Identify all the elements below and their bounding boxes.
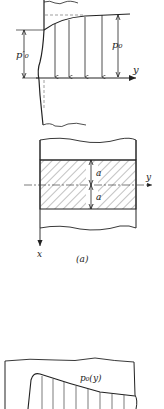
p0-prime-label: p′₀ bbox=[16, 49, 29, 60]
bottom-top-break-line bbox=[5, 358, 134, 362]
a-lower-label: a bbox=[96, 192, 101, 202]
layer-cross-section-diagram: a a y x (a) bbox=[24, 138, 152, 264]
diagram-canvas: p₀ p′₀ y a a y x bbox=[0, 0, 164, 409]
p0-label: p₀ bbox=[112, 39, 122, 50]
wall-profile bbox=[38, 0, 44, 125]
pressure-distribution-diagram: p₀ p′₀ y bbox=[16, 0, 139, 127]
p0y-distribution-diagram: p₀(y) bbox=[5, 358, 137, 409]
upper-body bbox=[40, 138, 136, 160]
x-axis-label: x bbox=[37, 249, 42, 259]
a-upper-label: a bbox=[96, 168, 101, 178]
y-axis-label: y bbox=[132, 64, 139, 75]
top-break-line bbox=[44, 1, 78, 4]
p0y-label: p₀(y) bbox=[80, 373, 102, 383]
figure-caption-a: (a) bbox=[76, 254, 89, 264]
bottom-break-line bbox=[43, 123, 86, 126]
lower-break-line bbox=[40, 226, 136, 230]
y-axis-label: y bbox=[145, 172, 152, 182]
pressure-arrows bbox=[55, 15, 102, 77]
